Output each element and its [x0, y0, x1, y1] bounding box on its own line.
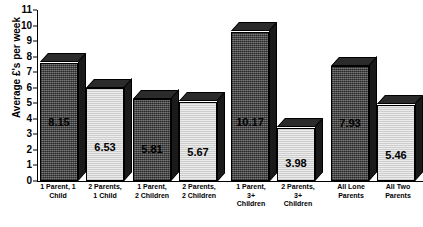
bar-front-face: 5.81 — [133, 99, 171, 181]
bar-value-label: 3.98 — [278, 158, 314, 169]
y-tick-label-7: 7 — [26, 67, 32, 77]
y-tick-label-8: 8 — [26, 52, 32, 62]
bar-side-face — [315, 118, 323, 181]
bar-front-face: 5.46 — [377, 105, 415, 181]
y-tick-label-10: 10 — [21, 21, 32, 31]
y-tick-label-3: 3 — [26, 129, 32, 139]
bar-group-all-two-parents: 5.46 — [377, 0, 423, 181]
y-axis-tick-labels: 11 10 9 8 7 6 5 4 3 2 1 0 — [14, 0, 32, 227]
x-axis-label-2: 2 Parents, 1 Child — [79, 183, 131, 200]
bar-side-face — [171, 89, 179, 181]
bar-value-label: 10.17 — [232, 117, 268, 128]
bar-value-label: 5.81 — [134, 144, 170, 155]
bar-value-label: 7.93 — [332, 118, 368, 129]
bar-group-2-parents-3plus-children: 3.98 — [277, 0, 323, 181]
bar-side-face — [217, 92, 225, 181]
x-axis-label-3: 1 Parent, 2 Children — [126, 183, 178, 200]
y-tick-label-5: 5 — [26, 98, 32, 108]
x-axis-label-7: All Lone Parents — [327, 183, 375, 200]
y-tick-label-11: 11 — [21, 5, 32, 15]
bar-group-1-parent-1-child: 8.15 — [40, 0, 86, 181]
bar-side-face — [415, 95, 423, 181]
bar-side-face — [369, 56, 377, 181]
bar-side-face — [78, 53, 86, 181]
x-axis-label-4: 2 Parents, 2 Children — [173, 183, 225, 200]
y-tick-label-2: 2 — [26, 145, 32, 155]
bar-value-label: 6.53 — [87, 142, 123, 153]
x-axis-label-8: All Two Parents — [374, 183, 422, 200]
bar-value-label: 8.15 — [41, 117, 77, 128]
bar-group-2-parents-1-child: 6.53 — [86, 0, 132, 181]
bar-group-2-parents-2-children: 5.67 — [179, 0, 225, 181]
bar-front-face: 8.15 — [40, 63, 78, 181]
bar-chart: Average £'s per week 11 10 9 8 7 6 5 4 3… — [0, 0, 423, 227]
y-tick-label-9: 9 — [26, 36, 32, 46]
bar-value-label: 5.46 — [378, 150, 414, 161]
bar-side-face — [124, 78, 132, 181]
bar-group-1-parent-3plus-children: 10.17 — [231, 0, 277, 181]
x-axis-label-5: 1 Parent, 3+ Children — [226, 183, 276, 209]
bar-group-1-parent-2-children: 5.81 — [133, 0, 179, 181]
bar-group-all-lone-parents: 7.93 — [331, 0, 377, 181]
y-tick-label-6: 6 — [26, 83, 32, 93]
bar-front-face: 5.67 — [179, 102, 217, 182]
bar-side-face — [269, 22, 277, 181]
y-tick-label-1: 1 — [26, 160, 32, 170]
x-axis-label-6: 2 Parents, 3+ Children — [272, 183, 324, 209]
x-axis-label-1: 1 Parent, 1 Child — [31, 183, 85, 200]
bar-front-face: 10.17 — [231, 32, 269, 182]
bar-value-label: 5.67 — [180, 147, 216, 158]
bar-front-face: 6.53 — [86, 88, 124, 181]
bar-front-face: 7.93 — [331, 66, 369, 181]
bar-front-face: 3.98 — [277, 128, 315, 181]
y-tick-label-4: 4 — [26, 114, 32, 124]
y-axis-line — [37, 10, 38, 181]
